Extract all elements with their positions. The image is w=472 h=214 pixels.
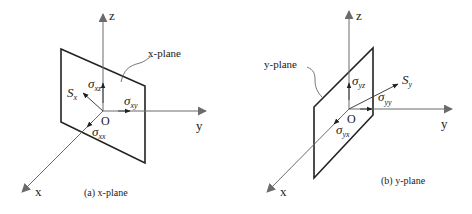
resultant-sx-label: Sx (67, 85, 78, 102)
shear-xy-label: σxy (124, 93, 138, 110)
y-plane-label: y-plane (264, 58, 297, 70)
y-axis-label: y (441, 116, 448, 131)
y-plane-leader (307, 67, 322, 97)
resultant-sy-label: Sy (402, 72, 413, 89)
resultant-sx-arrow (83, 93, 103, 111)
y-axis-label: y (196, 118, 203, 133)
caption-b: (b) y-plane (381, 175, 426, 187)
caption-a: (a) x-plane (84, 187, 128, 199)
x-axis-label: x (280, 184, 287, 199)
panel-y-plane: z y x O y-plane Sy σyz σyy σyx (b) y-pla… (264, 8, 452, 199)
origin-label: O (347, 112, 356, 126)
stress-diagram: z y x O x-plane Sx σxz σxy σxx (a) x-pla… (0, 0, 472, 214)
x-plane-label: x-plane (148, 47, 181, 59)
shear-yz-label: σyz (352, 73, 366, 90)
z-axis-label: z (109, 8, 115, 23)
x-axis-label: x (35, 184, 42, 199)
z-axis-label: z (356, 8, 362, 23)
y-plane-surface (314, 48, 373, 178)
panel-x-plane: z y x O x-plane Sx σxz σxy σxx (a) x-pla… (22, 8, 206, 199)
origin-label: O (101, 114, 110, 128)
shear-xz-label: σxz (88, 76, 102, 93)
normal-yy-label: σyy (378, 89, 392, 107)
